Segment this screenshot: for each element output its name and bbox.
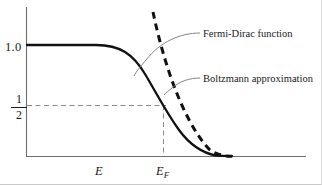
annotation-boltzmann: Boltzmann approximation <box>203 74 313 85</box>
fermi-dirac-figure: 1.0 1 2 E EF Fermi-Dirac function Boltzm… <box>0 0 322 185</box>
x-tick-label-ef: EF <box>156 165 169 180</box>
annotation-fermi-dirac: Fermi-Dirac function <box>203 29 293 40</box>
x-tick-label-e: E <box>95 165 103 178</box>
x-tick-label-ef-subscript: F <box>164 170 170 180</box>
fermi-dirac-leader-line <box>134 33 200 76</box>
y-tick-label-one: 1.0 <box>5 41 22 54</box>
y-tick-label-half: 1 2 <box>11 93 27 121</box>
fraction-numerator: 1 <box>11 93 27 106</box>
x-tick-label-ef-base: E <box>156 164 164 178</box>
boltzmann-leader-line <box>164 78 200 95</box>
fraction-denominator: 2 <box>11 109 27 122</box>
